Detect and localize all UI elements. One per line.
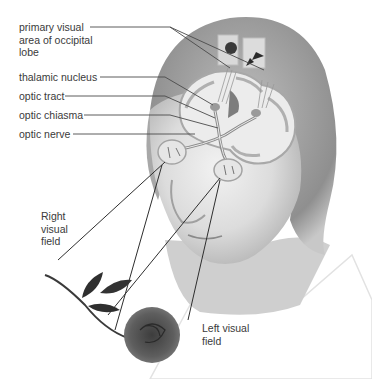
- right-eye: [158, 140, 186, 164]
- label-right-visual-field: Right visual field: [41, 210, 68, 248]
- rose-leaf: [82, 272, 103, 298]
- rose: [45, 272, 180, 363]
- label-optic-nerve: optic nerve: [19, 128, 70, 141]
- label-optic-tract: optic tract: [19, 90, 65, 103]
- visual-pathway-diagram: primary visual area of occipital lobe th…: [0, 0, 372, 379]
- label-optic-chiasma: optic chiasma: [19, 109, 83, 122]
- label-left-visual-field: Left visual field: [202, 322, 249, 347]
- rose-image-icon: [225, 42, 237, 54]
- sight-line-right-eye-lower: [115, 165, 162, 330]
- label-primary-visual-area: primary visual area of occipital lobe: [19, 21, 93, 59]
- rose-flower: [124, 307, 180, 363]
- label-thalamic-nucleus: thalamic nucleus: [19, 71, 97, 84]
- left-eye: [214, 159, 242, 181]
- rose-leaf: [88, 304, 120, 313]
